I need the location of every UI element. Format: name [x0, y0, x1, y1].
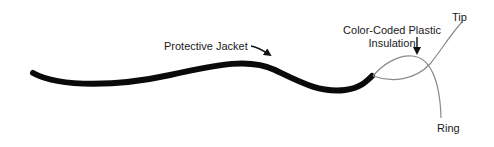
jacket-arrow — [251, 46, 270, 55]
insulation-label-line1: Color-Coded Plastic — [330, 24, 454, 37]
diagram-canvas — [0, 0, 494, 147]
ring-wire — [373, 56, 441, 118]
protective-jacket-label: Protective Jacket — [164, 40, 248, 53]
protective-jacket-cable — [33, 63, 372, 90]
ring-label: Ring — [437, 122, 460, 135]
tip-label: Tip — [452, 11, 467, 24]
insulation-label-line2: Insulation — [330, 37, 454, 50]
insulation-label: Color-Coded Plastic Insulation — [330, 24, 454, 50]
